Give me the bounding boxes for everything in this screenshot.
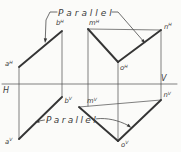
point-label-mV: mV xyxy=(87,97,98,106)
point-label-mH: mH xyxy=(89,19,100,28)
leader-bottom-right xyxy=(97,118,128,125)
figure-canvas: Parallel Parallel H V aH bH mH nH oH aV … xyxy=(0,0,181,152)
leader-bottom-left xyxy=(39,120,45,121)
arrowhead-top-left-icon xyxy=(44,38,47,43)
plane-label-v: V xyxy=(161,74,167,83)
point-label-bV: bV xyxy=(65,96,73,105)
arrowhead-bottom-right-icon xyxy=(127,124,132,128)
line-on-top-view xyxy=(118,30,161,62)
point-label-oH: oH xyxy=(120,64,128,73)
plane-label-h: H xyxy=(3,86,9,95)
leader-top-right xyxy=(112,12,143,41)
parallel-label-top: Parallel xyxy=(58,8,112,18)
point-label-nV: nV xyxy=(164,91,172,100)
line-on-front-view xyxy=(118,100,161,141)
parallel-label-bottom: Parallel xyxy=(46,115,96,125)
line-ab-top-view xyxy=(19,31,62,67)
point-label-aV: aV xyxy=(5,137,13,146)
projection-diagram: Parallel Parallel H V aH bH mH nH oH aV … xyxy=(0,0,181,152)
point-label-aH: aH xyxy=(5,60,13,69)
point-label-nH: nH xyxy=(164,22,172,31)
point-label-oV: oV xyxy=(121,140,129,149)
line-mn-top-view xyxy=(88,29,161,30)
point-label-bH: bH xyxy=(56,19,64,28)
line-mo-top-view xyxy=(88,29,118,62)
